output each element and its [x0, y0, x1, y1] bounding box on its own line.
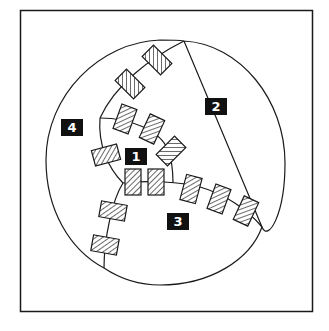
hatched-marker — [91, 235, 119, 255]
hatched-marker — [125, 169, 141, 195]
diagram-canvas — [0, 0, 329, 331]
region-label-1: 1 — [125, 148, 147, 165]
hatched-marker — [115, 69, 145, 99]
hatched-marker — [207, 184, 231, 214]
hatched-marker — [233, 196, 258, 226]
hatched-marker — [113, 104, 137, 134]
region-label-3: 3 — [167, 213, 189, 230]
hatched-marker — [156, 136, 186, 166]
region-label-2: 2 — [205, 98, 227, 115]
hatched-marker — [148, 169, 164, 195]
boundary-lower-left — [104, 183, 123, 268]
hatched-marker — [91, 144, 120, 166]
hatched-marker — [99, 201, 127, 221]
region-label-4: 4 — [61, 119, 83, 136]
hatched-marker — [180, 174, 202, 203]
